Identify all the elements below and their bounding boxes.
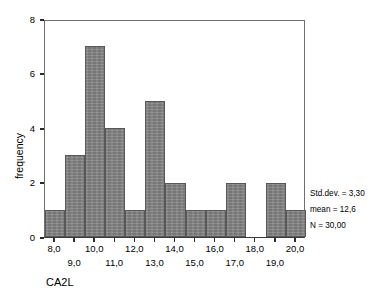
std-dev-text: Std.dev. = 3,30 [310,186,382,202]
x-tick-label: 15,0 [185,256,204,269]
x-tick-label: 8,0 [47,242,60,255]
mean-text: mean = 12,6 [310,202,382,218]
y-tick-label: 2 [30,177,35,189]
x-tick-label: 11,0 [105,256,123,269]
x-tick-label: 9,0 [68,256,81,269]
histogram-bar [45,210,65,237]
x-tick-label: 16,0 [205,242,224,255]
x-tick-label: 13,0 [145,256,164,269]
x-tick-label: 14,0 [165,242,184,255]
x-tick-label: 10,0 [85,242,104,255]
histogram-bar [125,210,145,237]
bars-layer [45,21,304,237]
histogram-bar [226,183,246,238]
histogram-bar [266,183,286,238]
plot-area [44,20,305,238]
histogram-bar [186,210,206,237]
x-axis-labels-lower: 9,011,013,015,017,019,0 [0,256,382,269]
statistics-annotation: Std.dev. = 3,30 mean = 12,6 N = 30,00 [310,186,382,234]
histogram-bar [105,128,125,237]
x-tick-label: 12,0 [125,242,144,255]
histogram-bar [145,101,165,237]
histogram-bar [286,210,306,237]
histogram-bar [165,183,185,238]
y-tick-label: 8 [30,14,35,26]
histogram-chart: 8 6 4 2 0 frequency 8,010,012,014,016,01… [0,0,382,307]
histogram-bar [85,46,105,237]
sample-size-text: N = 30,00 [310,218,382,234]
histogram-bar [65,155,85,237]
x-axis-title: CA2L [46,276,74,288]
x-tick-label: 20,0 [286,242,305,255]
x-axis-labels-upper: 8,010,012,014,016,018,020,0 [0,242,382,255]
x-tick-label: 19,0 [266,256,285,269]
x-tick-label: 17,0 [225,256,244,269]
y-tick-label: 4 [30,123,35,135]
y-tick-label: 6 [30,68,35,80]
y-axis-title: frequency [13,101,25,211]
histogram-bar [206,210,226,237]
x-tick-label: 18,0 [246,242,265,255]
